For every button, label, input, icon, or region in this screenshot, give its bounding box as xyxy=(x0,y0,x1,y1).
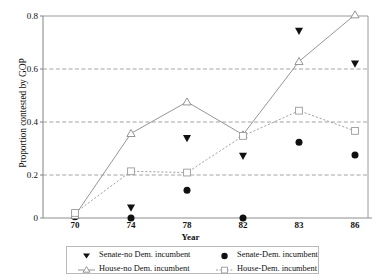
marker-down-triangle xyxy=(183,135,191,142)
marker-circle xyxy=(296,139,303,146)
legend-item-senate-no-dem[interactable]: Senate-no Dem. incumbent xyxy=(67,249,211,261)
axis-frame xyxy=(40,16,372,218)
marker-circle xyxy=(184,187,191,194)
marker-open-square xyxy=(296,107,303,114)
data-series-layer xyxy=(71,11,359,222)
marker-down-triangle xyxy=(239,153,247,160)
gridlines xyxy=(43,69,368,175)
marker-circle xyxy=(128,215,135,222)
legend-label: House-no Dem. incumbent xyxy=(97,264,189,273)
marker-down-triangle xyxy=(127,205,135,212)
legend-label: Senate-Dem. incumbent xyxy=(235,250,318,259)
legend-item-house-no-dem[interactable]: House-no Dem. incumbent xyxy=(67,263,211,275)
marker-circle xyxy=(240,215,247,222)
open-triangle-line-icon xyxy=(77,263,97,275)
series-line xyxy=(75,111,355,213)
series-senate-dem-incumbent xyxy=(72,139,359,222)
marker-open-square xyxy=(184,169,191,176)
marker-open-triangle xyxy=(183,98,191,105)
filled-circle-icon xyxy=(215,249,235,261)
chart-figure: Proportion contested by GOP 0.8 0.6 0.4 … xyxy=(0,0,381,277)
marker-down-triangle xyxy=(351,61,359,68)
open-square-line-icon xyxy=(215,263,235,275)
plot-area xyxy=(0,0,381,240)
legend-label: House-Dem. incumbent xyxy=(235,264,317,273)
filled-down-triangle-icon xyxy=(77,249,97,261)
chart-legend: Senate-no Dem. incumbent Senate-Dem. inc… xyxy=(66,246,319,274)
marker-open-square xyxy=(240,133,247,140)
series-house-no-dem-incumbent xyxy=(71,11,359,219)
legend-row-1: Senate-no Dem. incumbent Senate-Dem. inc… xyxy=(67,248,318,261)
legend-row-2: House-no Dem. incumbent House-Dem. incum… xyxy=(67,262,318,275)
series-house-dem-incumbent xyxy=(72,107,359,216)
series-line xyxy=(75,15,355,216)
marker-circle xyxy=(352,151,359,158)
legend-item-house-dem[interactable]: House-Dem. incumbent xyxy=(211,263,317,275)
marker-open-square xyxy=(352,127,359,134)
series-senate-no-dem-incumbent xyxy=(71,28,359,220)
marker-open-square xyxy=(72,210,79,217)
legend-item-senate-dem[interactable]: Senate-Dem. incumbent xyxy=(211,249,318,261)
marker-down-triangle xyxy=(295,28,303,35)
marker-open-triangle xyxy=(351,11,359,18)
legend-label: Senate-no Dem. incumbent xyxy=(97,250,190,259)
marker-open-square xyxy=(128,168,135,175)
marker-open-triangle xyxy=(127,130,135,137)
